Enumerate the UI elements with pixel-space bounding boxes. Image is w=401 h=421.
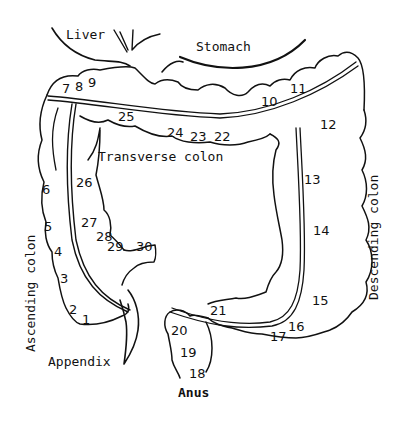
colon-diagram: Liver Stomach Transverse colon Appendix …: [0, 0, 401, 421]
segment-number-14: 14: [313, 224, 330, 237]
segment-number-22: 22: [214, 130, 231, 143]
segment-number-30: 30: [136, 240, 153, 253]
label-anus: Anus: [178, 386, 209, 399]
segment-number-19: 19: [180, 346, 197, 359]
label-descending-colon: Descending colon: [367, 175, 380, 300]
segment-number-4: 4: [54, 245, 62, 258]
segment-number-9: 9: [88, 76, 96, 89]
tenia-line-ascending-b: [72, 104, 131, 310]
segment-number-18: 18: [189, 367, 206, 380]
segment-number-12: 12: [320, 118, 337, 131]
segment-number-20: 20: [171, 324, 188, 337]
label-stomach: Stomach: [196, 40, 251, 53]
liver-marks: [114, 30, 160, 52]
label-appendix: Appendix: [48, 355, 111, 368]
segment-number-3: 3: [60, 272, 68, 285]
label-ascending-colon: Ascending colon: [24, 235, 37, 352]
segment-number-13: 13: [304, 173, 321, 186]
rectum-outline: [206, 322, 212, 372]
segment-number-6: 6: [42, 183, 50, 196]
segment-number-23: 23: [190, 130, 207, 143]
segment-number-16: 16: [288, 320, 305, 333]
segment-number-11: 11: [290, 82, 307, 95]
segment-number-25: 25: [118, 110, 135, 123]
segment-number-2: 2: [69, 303, 77, 316]
segment-number-1: 1: [82, 313, 90, 326]
stomach-top: [162, 61, 183, 72]
segment-number-27: 27: [81, 216, 98, 229]
appendix-outline: [120, 290, 139, 364]
segment-number-17: 17: [270, 330, 287, 343]
segment-number-15: 15: [312, 294, 329, 307]
segment-number-8: 8: [75, 80, 83, 93]
segment-number-24: 24: [167, 126, 184, 139]
label-liver: Liver: [66, 28, 105, 41]
tenia-line-transverse-b: [48, 66, 358, 118]
segment-number-26: 26: [76, 176, 93, 189]
segment-number-5: 5: [44, 220, 52, 233]
ascending-outer-outline: [38, 95, 128, 325]
segment-number-29: 29: [107, 240, 124, 253]
segment-number-10: 10: [261, 95, 278, 108]
label-transverse-colon: Transverse colon: [98, 150, 223, 163]
segment-number-21: 21: [210, 304, 227, 317]
ascending-left-thin: [53, 108, 59, 170]
segment-number-7: 7: [62, 82, 70, 95]
tenia-line-ascending-a: [68, 104, 129, 312]
